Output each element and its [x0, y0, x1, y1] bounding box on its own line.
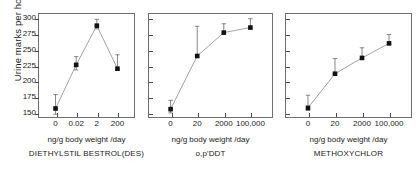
caption-block-opddt: ng/g body weight /day o,p'DDT: [148, 13, 273, 39]
x-tick-label: 20: [331, 120, 340, 128]
data-point-marker: [387, 41, 392, 46]
data-point-marker: [115, 66, 120, 71]
data-point-marker: [195, 54, 200, 59]
x-tick-label: 0: [306, 120, 310, 128]
series-line: [171, 28, 251, 110]
y-tick-label: 200: [23, 77, 36, 85]
panel-caption: DIETHYLSTIL BESTROL(DES): [8, 149, 165, 158]
panel-caption: o,p'DDT: [148, 149, 273, 158]
x-tick-label: 100,000: [375, 120, 404, 128]
x-tick-label: 2000: [215, 120, 233, 128]
series-line: [308, 43, 389, 108]
data-point-marker: [306, 106, 311, 111]
x-axis-tick-labels: 0202000100,000: [285, 120, 412, 132]
x-axis-title: ng/g body weight /day: [283, 135, 414, 144]
data-point-marker: [168, 107, 173, 112]
x-tick-label: 2000: [353, 120, 371, 128]
x-tick-label: 0: [53, 120, 57, 128]
figure-three-panel-dose-response: Urine marks per hour 1501752002252502753…: [0, 0, 418, 177]
y-tick-label: 250: [23, 46, 36, 54]
data-point-marker: [74, 63, 79, 68]
y-tick-label: 225: [23, 62, 36, 70]
caption-block-methoxychlor: ng/g body weight /day METHOXYCHLOR: [283, 13, 414, 39]
x-tick-label: 0: [168, 120, 172, 128]
data-point-marker: [333, 71, 338, 76]
y-tick-label: 175: [23, 93, 36, 101]
x-tick-label: 0.02: [68, 120, 84, 128]
x-tick-label: 100,000: [236, 120, 265, 128]
caption-block-des: ng/g body weight /day DIETHYLSTIL BESTRO…: [8, 13, 165, 39]
x-axis-tick-labels: 0202000100,000: [148, 120, 273, 132]
panel-caption: METHOXYCHLOR: [283, 149, 414, 158]
x-tick-label: 2: [95, 120, 99, 128]
y-tick-label: 150: [23, 109, 36, 117]
x-axis-title: ng/g body weight /day: [8, 135, 165, 144]
data-point-marker: [360, 56, 365, 61]
x-tick-label: 200: [111, 120, 124, 128]
x-axis-tick-labels: 00.022200: [38, 120, 135, 132]
data-point-marker: [53, 106, 58, 111]
x-axis-title: ng/g body weight /day: [148, 135, 273, 144]
x-tick-label: 20: [193, 120, 202, 128]
